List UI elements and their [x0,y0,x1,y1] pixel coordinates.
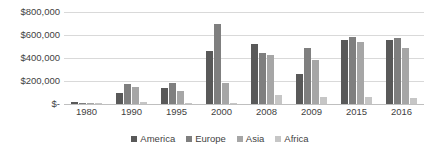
bar[interactable] [296,74,303,104]
bar[interactable] [357,42,364,104]
bar[interactable] [394,38,401,104]
legend-label: Africa [284,133,308,144]
bar[interactable] [161,88,168,104]
bar[interactable] [275,95,282,104]
legend-item[interactable]: Europe [186,133,226,144]
bar[interactable] [116,93,123,104]
bar-chart: $800,000$600,000$400,000$200,000$- 19801… [0,0,440,157]
x-axis-tick-label: 1995 [154,106,199,117]
bar[interactable] [320,97,327,104]
bar[interactable] [124,84,131,104]
legend-item[interactable]: Africa [275,133,308,144]
x-axis-tick-label: 2016 [379,106,424,117]
bar[interactable] [79,103,86,104]
x-axis-labels: 19801990199520002008200920152016 [64,106,424,117]
bar[interactable] [341,40,348,104]
bar[interactable] [259,53,266,104]
y-axis-tick-label: $200,000 [20,76,60,86]
bar-group [379,12,424,104]
bar-group [334,12,379,104]
bar[interactable] [177,91,184,104]
bar[interactable] [71,102,78,104]
bar[interactable] [87,103,94,104]
legend-swatch-icon [237,136,243,142]
y-axis-labels: $800,000$600,000$400,000$200,000$- [0,0,60,116]
bar[interactable] [410,98,417,104]
y-axis-tick-label: $- [52,99,60,109]
bar[interactable] [206,51,213,104]
bar[interactable] [251,44,258,104]
bar[interactable] [230,103,237,104]
legend-swatch-icon [186,136,192,142]
bar[interactable] [365,97,372,104]
x-axis-tick-label: 1990 [109,106,154,117]
legend-item[interactable]: America [131,133,175,144]
bar-group [199,12,244,104]
y-axis-tick-label: $600,000 [20,30,60,40]
axis-baseline [64,104,424,105]
y-axis-tick-label: $800,000 [20,7,60,17]
y-axis-tick-label: $400,000 [20,53,60,63]
legend-label: Europe [195,133,226,144]
bar[interactable] [222,83,229,104]
bar[interactable] [95,103,102,104]
bar-group [154,12,199,104]
bar[interactable] [185,103,192,104]
x-axis-tick-label: 2015 [334,106,379,117]
bar[interactable] [214,24,221,105]
bar-group [109,12,154,104]
legend-item[interactable]: Asia [237,133,264,144]
bar-group [64,12,109,104]
bar-group [244,12,289,104]
bar[interactable] [304,48,311,104]
x-axis-tick-label: 1980 [64,106,109,117]
x-axis-tick-label: 2000 [199,106,244,117]
legend-label: America [140,133,175,144]
bar[interactable] [140,102,147,104]
bar[interactable] [132,87,139,104]
bar[interactable] [312,60,319,104]
chart-legend: AmericaEuropeAsiaAfrica [0,133,440,144]
legend-swatch-icon [131,136,137,142]
x-axis-tick-label: 2008 [244,106,289,117]
legend-label: Asia [246,133,264,144]
x-axis-tick-label: 2009 [289,106,334,117]
bar[interactable] [386,40,393,104]
bar[interactable] [169,83,176,104]
legend-swatch-icon [275,136,281,142]
bar[interactable] [349,37,356,104]
bar-group [289,12,334,104]
bar[interactable] [267,55,274,104]
bar[interactable] [402,48,409,104]
bar-groups [64,12,424,104]
plot-area [64,12,424,104]
